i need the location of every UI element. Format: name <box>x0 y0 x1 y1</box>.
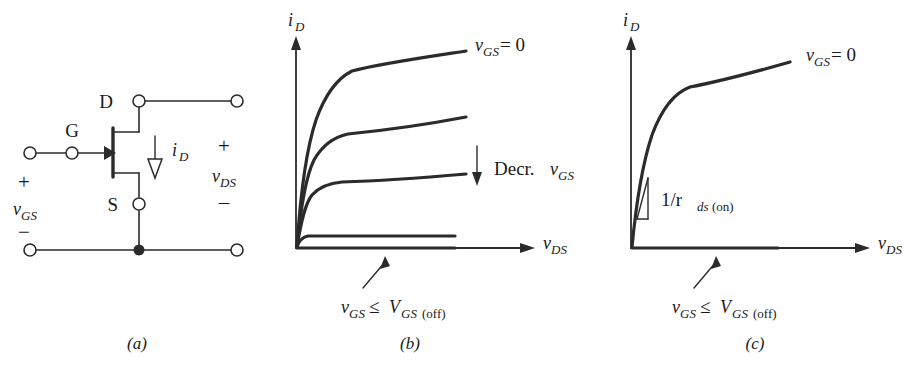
panel-c-y-axis-arrowhead-icon <box>626 36 636 50</box>
drain-current-arrowhead-icon <box>148 159 162 178</box>
gate-input-terminal-node <box>24 147 36 159</box>
svg-text:(off): (off) <box>753 306 777 321</box>
panel-c-x-axis-label: v DS <box>878 233 902 257</box>
panel-a-caption: (a) <box>127 334 147 353</box>
panel-b-x-axis-arrowhead-icon <box>520 243 535 253</box>
panel-b-curve-2 <box>297 117 466 247</box>
output-minus-label: – <box>218 190 230 214</box>
source-terminal-node <box>133 198 145 210</box>
drain-label: D <box>99 91 113 112</box>
svg-text:v: v <box>341 297 349 317</box>
panel-c-x-axis-arrowhead-icon <box>855 243 870 253</box>
panel-b-y-axis-label: i D <box>288 10 305 34</box>
svg-text:(on): (on) <box>712 199 734 214</box>
panel-c-curve-1 <box>632 62 790 247</box>
panel-b-caption: (b) <box>400 334 420 353</box>
panel-b-curve-4 <box>297 236 455 247</box>
panel-c-chart: i D v DS v GS = 0 1/r ds (on) v GS ≤ V G… <box>623 10 902 353</box>
svg-text:v: v <box>13 199 21 219</box>
panel-c-top-curve-label: v GS = 0 <box>806 44 856 69</box>
svg-text:ds: ds <box>697 199 709 214</box>
svg-text:D: D <box>294 19 305 34</box>
svg-text:D: D <box>629 19 640 34</box>
panel-c-slope-label: 1/r ds (on) <box>661 189 734 214</box>
svg-text:= 0: = 0 <box>831 44 856 65</box>
svg-text:v: v <box>543 233 551 253</box>
panel-b-y-axis-arrowhead-icon <box>291 36 301 50</box>
svg-text:GS: GS <box>814 54 830 69</box>
svg-text:GS: GS <box>732 306 748 321</box>
figure-svg: D G S i D + v GS − + v DS – (a) <box>0 0 921 378</box>
panel-c-y-axis-label: i D <box>623 10 640 34</box>
panel-b-chart: i D v DS v GS = 0 Decr. v GS v GS ≤ <box>288 10 574 353</box>
svg-text:GS: GS <box>558 168 574 183</box>
svg-text:GS: GS <box>401 306 417 321</box>
panel-c-caption: (c) <box>746 334 765 353</box>
svg-text:i: i <box>172 140 177 160</box>
input-plus-label: + <box>18 170 30 194</box>
panel-b-x-axis-label: v DS <box>543 233 567 257</box>
svg-text:v: v <box>878 233 886 253</box>
svg-text:v: v <box>806 45 814 65</box>
figure-container: D G S i D + v GS − + v DS – (a) <box>0 0 921 378</box>
svg-text:v: v <box>475 35 483 55</box>
panel-c-cutoff-annotation: v GS ≤ V GS (off) <box>672 256 777 321</box>
output-bottom-terminal-node <box>231 244 243 256</box>
svg-text:GS: GS <box>680 306 696 321</box>
svg-text:D: D <box>178 149 189 164</box>
drain-current-label: i D <box>172 140 189 164</box>
output-plus-label: + <box>218 134 230 158</box>
input-minus-label: − <box>18 220 30 244</box>
panel-b-trend-annotation: Decr. v GS <box>472 146 574 186</box>
input-bottom-terminal-node <box>24 244 36 256</box>
svg-text:DS: DS <box>550 242 567 257</box>
panel-b-top-curve-label: v GS = 0 <box>475 34 525 59</box>
output-top-terminal-node <box>231 95 243 107</box>
svg-text:≤: ≤ <box>369 296 379 317</box>
gate-terminal-node <box>66 147 78 159</box>
svg-text:= 0: = 0 <box>500 34 525 55</box>
svg-text:GS: GS <box>483 44 499 59</box>
drain-terminal-node <box>133 95 145 107</box>
output-voltage-label: v DS <box>212 166 236 190</box>
svg-text:i: i <box>288 10 293 30</box>
svg-text:v: v <box>212 166 220 186</box>
svg-text:Decr.: Decr. <box>494 158 535 179</box>
panel-b-cutoff-pointer-arrowhead-icon <box>380 256 390 269</box>
svg-text:i: i <box>623 10 628 30</box>
svg-text:≤: ≤ <box>700 296 710 317</box>
junction-dot <box>134 245 145 256</box>
panel-a-circuit: D G S i D + v GS − + v DS – (a) <box>13 91 243 353</box>
svg-text:(off): (off) <box>422 306 446 321</box>
panel-b-trend-arrowhead-icon <box>472 172 482 186</box>
source-label: S <box>107 194 118 215</box>
svg-text:v: v <box>672 297 680 317</box>
svg-text:DS: DS <box>885 242 902 257</box>
svg-text:DS: DS <box>219 175 236 190</box>
panel-b-cutoff-annotation: v GS ≤ V GS (off) <box>341 256 446 321</box>
svg-text:v: v <box>550 159 558 179</box>
svg-text:1/r: 1/r <box>661 189 683 210</box>
svg-text:GS: GS <box>349 306 365 321</box>
gate-label: G <box>65 120 79 141</box>
panel-c-cutoff-pointer-arrowhead-icon <box>711 256 721 269</box>
